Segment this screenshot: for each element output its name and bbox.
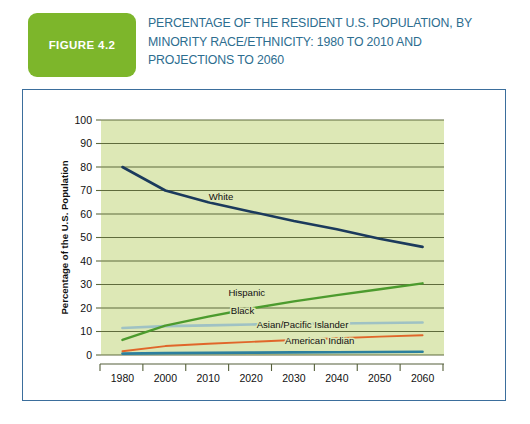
chart-frame	[22, 89, 506, 401]
figure-header: FIGURE 4.2 PERCENTAGE OF THE RESIDENT U.…	[0, 0, 530, 88]
figure-number-badge: FIGURE 4.2	[28, 13, 136, 77]
figure-title: PERCENTAGE OF THE RESIDENT U.S. POPULATI…	[148, 14, 490, 70]
figure-number-label: FIGURE 4.2	[49, 39, 116, 51]
